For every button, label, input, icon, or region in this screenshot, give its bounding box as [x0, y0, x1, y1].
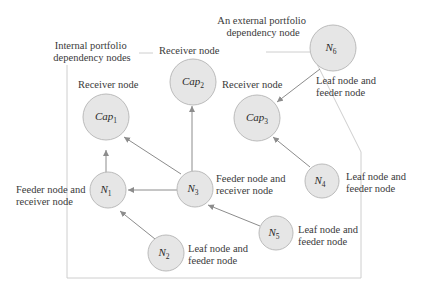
- role-label-n3: Feeder node and receiver node: [216, 173, 288, 196]
- edges: [106, 69, 320, 239]
- role-label-cap3: Receiver node: [222, 79, 283, 90]
- edge-n3-cap1: [124, 137, 181, 174]
- node-cap3: Cap3: [234, 95, 280, 141]
- node-n6: N6: [310, 25, 356, 71]
- role-label-n2: Leaf node and feeder node: [188, 243, 251, 266]
- role-label-n1: Feeder node and receiver node: [16, 184, 88, 207]
- edge-n5-n3: [208, 205, 260, 226]
- node-n4: N4: [305, 164, 339, 198]
- dependency-diagram: Cap1 Cap2 Cap3 N1 N2 N3 N4 N5 N6 Interna…: [0, 0, 421, 290]
- role-label-n5: Leaf node and feeder node: [298, 224, 361, 247]
- node-n2: N2: [148, 235, 184, 271]
- role-label-cap2: Receiver node: [159, 45, 220, 56]
- node-cap1: Cap1: [83, 94, 129, 140]
- node-n1: N1: [90, 172, 126, 208]
- role-label-n4: Leaf node and feeder node: [346, 171, 409, 194]
- role-label-cap1: Receiver node: [78, 79, 139, 90]
- node-cap2: Cap2: [170, 59, 216, 105]
- external-group-label: An external portfolio dependency node: [217, 15, 308, 38]
- role-label-n6: Leaf node and feeder node: [316, 75, 379, 98]
- edge-n2-n1: [120, 211, 155, 239]
- internal-group-label: Internal portfolio dependency nodes: [53, 40, 130, 63]
- node-n3: N3: [177, 171, 213, 207]
- node-n5: N5: [259, 216, 293, 250]
- edge-n6-cap3: [277, 69, 320, 102]
- edge-n4-cap3: [273, 137, 310, 167]
